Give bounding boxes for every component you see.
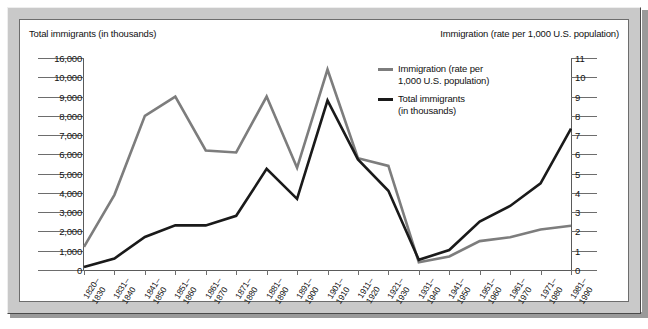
x-tick-label: 1841–1850 — [142, 276, 171, 306]
x-tick-label: 1981–1990 — [568, 276, 597, 306]
right-tick-label: 2 — [575, 226, 597, 237]
x-tick — [84, 270, 85, 275]
legend-swatch-rate — [378, 68, 393, 71]
left-tick-label: 1,000 — [38, 245, 82, 256]
x-tick-label: 1971–1980 — [538, 276, 567, 306]
x-tick — [175, 270, 176, 275]
left-tick-label: 4,000 — [38, 187, 82, 198]
right-axis-line — [571, 58, 572, 270]
right-tick-label: 3 — [575, 207, 597, 218]
left-tick-label: 16,000 — [38, 53, 82, 64]
x-tick-label: 1951–1960 — [477, 276, 506, 306]
right-tick-label: 1 — [575, 245, 597, 256]
legend-label-rate: Immigration (rate per 1,000 U.S. populat… — [398, 63, 489, 86]
legend-item-rate: Immigration (rate per 1,000 U.S. populat… — [378, 63, 489, 86]
x-tick — [236, 270, 237, 275]
x-tick — [267, 270, 268, 275]
right-axis-title: Immigration (rate per 1,000 U.S. populat… — [440, 28, 619, 39]
right-tick-label: 0 — [575, 265, 597, 276]
x-tick-label: 1931–1940 — [416, 276, 445, 306]
left-tick-label: 3,000 — [38, 207, 82, 218]
x-tick — [480, 270, 481, 275]
chart-panel: Total immigrants (in thousands) Immigrat… — [19, 19, 629, 302]
right-tick-label: 10 — [575, 72, 597, 83]
right-tick-label: 9 — [575, 91, 597, 102]
x-tick — [114, 270, 115, 275]
left-tick-label: 2,000 — [38, 226, 82, 237]
x-tick-label: 1881–1890 — [264, 276, 293, 306]
x-tick-label: 1851–1860 — [172, 276, 201, 306]
left-tick-label: 10,000 — [38, 72, 82, 83]
right-tick-label: 11 — [575, 53, 597, 64]
x-tick-label: 1911–1920 — [355, 276, 384, 305]
x-tick-label: 1820–1830 — [81, 276, 110, 306]
x-tick-label: 1861–1870 — [203, 276, 232, 306]
x-tick-label: 1871–1880 — [233, 276, 262, 306]
x-tick-label: 1901–1910 — [325, 276, 354, 306]
left-tick-label: 7,000 — [38, 130, 82, 141]
left-axis-title: Total immigrants (in thousands) — [29, 28, 156, 39]
x-tick-label: 1921–1930 — [385, 276, 414, 306]
x-tick — [571, 270, 572, 275]
figure-container: Total immigrants (in thousands) Immigrat… — [0, 0, 648, 329]
x-tick-label: 1831–1840 — [111, 276, 140, 306]
x-tick-label: 1961–1970 — [507, 276, 536, 306]
left-tick-label: 8,000 — [38, 110, 82, 121]
plot-area: 01,0002,0003,0004,0005,0006,0007,0008,00… — [84, 58, 571, 270]
x-tick-label: 1941–1950 — [446, 276, 475, 306]
x-tick — [449, 270, 450, 275]
x-tick — [145, 270, 146, 275]
x-tick — [541, 270, 542, 275]
legend-swatch-total — [378, 98, 393, 101]
left-tick-label: 9,000 — [38, 91, 82, 102]
right-tick-label: 8 — [575, 110, 597, 121]
left-tick-label: 5,000 — [38, 168, 82, 179]
left-tick-label: 6,000 — [38, 149, 82, 160]
frame-drop-shadow-right — [642, 10, 648, 318]
series-lines — [84, 58, 571, 270]
x-tick-label: 1891–1900 — [294, 276, 323, 306]
x-tick — [419, 270, 420, 275]
x-tick — [388, 270, 389, 275]
right-tick-label: 7 — [575, 130, 597, 141]
x-tick — [297, 270, 298, 275]
legend-item-total: Total immigrants (in thousands) — [378, 93, 489, 116]
right-tick-label: 6 — [575, 149, 597, 160]
right-tick-label: 4 — [575, 187, 597, 198]
x-tick — [328, 270, 329, 275]
x-tick — [206, 270, 207, 275]
left-tick-label: 0 — [38, 265, 82, 276]
legend: Immigration (rate per 1,000 U.S. populat… — [378, 63, 489, 123]
series-line-total — [84, 101, 571, 268]
x-tick — [510, 270, 511, 275]
legend-label-total: Total immigrants (in thousands) — [398, 93, 465, 116]
right-tick-label: 5 — [575, 168, 597, 179]
x-tick — [358, 270, 359, 275]
